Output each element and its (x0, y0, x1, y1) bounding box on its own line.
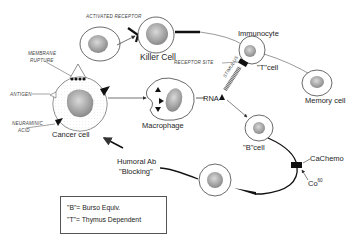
rna-label: RNA (203, 94, 219, 103)
arrow-to-b-cell (227, 100, 247, 117)
plasma-cell (199, 164, 231, 196)
t-cell-label: "T"cell (257, 63, 278, 72)
memory-cell-label: Memory cell (305, 96, 345, 105)
killer-cell (138, 17, 174, 53)
co60-text: Co (308, 179, 318, 188)
killer-cell-label: Killer Cell (140, 52, 176, 62)
precursor-cell (80, 27, 120, 61)
blocking-arrow (104, 138, 123, 148)
neuraminic-label-2: Acid (18, 128, 30, 133)
legend-b: "B"= Burso Equiv. (67, 202, 160, 214)
rna-triangle-icon (219, 94, 225, 100)
chemo-block-icon (291, 162, 302, 168)
cancer-cell (50, 64, 110, 131)
humoral-label-1: Humoral Ab (117, 157, 156, 166)
immunocyte-label: Immunocyte (238, 29, 279, 38)
b-cell (245, 115, 273, 141)
activated-receptor-icon (128, 28, 138, 42)
cancer-cell-label: Cancer cell (52, 130, 90, 139)
memory-cell (302, 70, 332, 96)
antigen-label: Antigen (10, 92, 32, 97)
b-cell-label: "B"cell (243, 143, 265, 152)
neuraminic-label-1: Neuraminic (12, 121, 43, 126)
activated-receptor-label: Activated Receptor (86, 14, 142, 19)
co60-label: Co60 (308, 178, 323, 188)
membrane-label-1: Membrane (28, 51, 56, 56)
co60-superscript: 60 (318, 178, 323, 183)
wedge-icon (234, 188, 256, 195)
humoral-label-2: "Blocking" (119, 167, 153, 176)
ca-chemo-label: CaChemo (310, 154, 344, 163)
membrane-label-2: Rupture (30, 58, 54, 63)
macrophage-label: Macrophage (142, 121, 184, 130)
receptor-site-label: Receptor Site (174, 60, 214, 65)
legend-t: "T"= Thymus Dependent (67, 214, 160, 226)
legend-box: "B"= Burso Equiv. "T"= Thymus Dependent (60, 196, 167, 234)
macrophage (146, 78, 194, 120)
